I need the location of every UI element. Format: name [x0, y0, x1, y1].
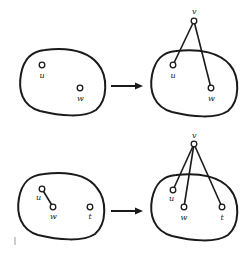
panel-top-right: v u w [151, 7, 237, 116]
edge-v-u [173, 21, 194, 65]
transform-arrow-top [111, 83, 143, 90]
region-outline [20, 49, 105, 115]
vertex-label-w: w [181, 213, 188, 222]
vertex-u [170, 62, 176, 68]
arrow-head-icon [135, 208, 143, 215]
vertex-t [219, 204, 225, 210]
panel-bottom-left: u w t [18, 173, 104, 239]
vertex-u [170, 187, 176, 193]
vertex-u [39, 186, 45, 192]
vertex-label-w: w [208, 94, 215, 103]
vertex-w [181, 204, 187, 210]
vertex-w [50, 204, 56, 210]
vertex-t [87, 204, 93, 210]
vertex-u [39, 62, 45, 68]
transform-arrow-bottom [111, 208, 143, 215]
vertex-label-w: w [50, 212, 57, 221]
vertex-label-v: v [192, 131, 197, 140]
vertex-label-w: w [77, 94, 84, 103]
vertex-v [191, 18, 197, 24]
vertex-label-u: u [40, 71, 45, 80]
edge-v-w [194, 21, 211, 88]
arrow-head-icon [135, 83, 143, 90]
graph-diagram: u w v u w u w t [0, 0, 252, 257]
vertex-v [191, 141, 197, 147]
vertex-w [208, 85, 214, 91]
vertex-label-v: v [192, 7, 197, 16]
vertex-label-u: u [36, 193, 41, 202]
vertex-w [77, 85, 83, 91]
vertex-label-u: u [171, 71, 176, 80]
vertex-label-t: t [89, 212, 93, 221]
vertex-label-t: t [221, 213, 225, 222]
region-outline [151, 50, 237, 116]
vertex-label-u: u [169, 194, 174, 203]
panel-top-left: u w [20, 49, 105, 115]
panel-bottom-right: v u w t [151, 131, 237, 240]
